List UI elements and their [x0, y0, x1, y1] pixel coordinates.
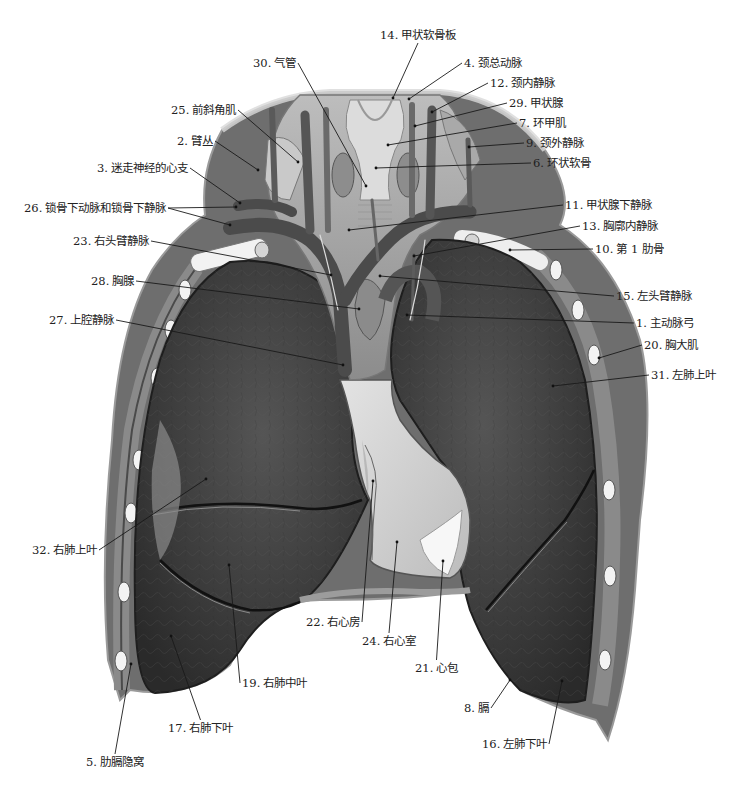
leader-dot-1 [406, 314, 409, 317]
label-text: 左肺下叶 [503, 737, 547, 751]
label-11: 11.甲状腺下静脉 [565, 198, 652, 212]
leader-dot-25 [297, 161, 300, 164]
label-32: 32.右肺上叶 [32, 543, 97, 557]
label-4: 4.颈总动脉 [464, 56, 522, 70]
label-30: 30.气管 [253, 56, 296, 70]
label-25: 25.前斜角肌 [171, 103, 236, 117]
label-22: 22.右心房 [306, 615, 360, 629]
leader-dot-24 [396, 541, 399, 544]
label-8: 8.膈 [464, 701, 489, 715]
label-29: 29.甲状腺 [509, 96, 563, 110]
label-text: 环甲肌 [533, 116, 566, 130]
label-20: 20.胸大肌 [644, 338, 698, 352]
leader-dot-5 [130, 663, 133, 666]
leader-dot-19 [228, 564, 231, 567]
leader-dot-8 [509, 679, 512, 682]
label-text: 右心室 [383, 634, 416, 648]
label-number: 31. [651, 368, 669, 382]
leader-dot-22 [372, 480, 375, 483]
label-number: 22. [306, 615, 324, 629]
label-text: 胸腺 [112, 274, 134, 288]
label-number: 29. [509, 96, 527, 110]
leader-dot-11 [348, 229, 351, 232]
label-number: 21. [415, 661, 433, 675]
leader-dot-3 [239, 202, 242, 205]
label-number: 5. [86, 755, 97, 769]
label-15: 15.左头臂静脉 [616, 289, 692, 303]
leader-dot-27 [342, 364, 345, 367]
leader-dot-26 [229, 224, 232, 227]
label-23: 23.右头臂静脉 [73, 234, 149, 248]
label-26: 26.锁骨下动脉和锁骨下静脉 [24, 201, 166, 215]
label-text: 右肺下叶 [189, 721, 233, 735]
label-number: 15. [616, 289, 634, 303]
label-9: 9.颈外静脉 [526, 136, 584, 150]
label-21: 21.心包 [415, 661, 458, 675]
label-number: 26. [24, 201, 42, 215]
leader-dot-21 [442, 560, 445, 563]
label-text: 环状软骨 [547, 156, 591, 170]
label-text: 颈外静脉 [540, 136, 584, 150]
label-7: 7.环甲肌 [519, 116, 566, 130]
leader-dot-6 [375, 167, 378, 170]
label-text: 膈 [478, 701, 489, 715]
label-12: 12.颈内静脉 [490, 76, 555, 90]
leader-dot-10 [509, 249, 512, 252]
leader-dot-17 [170, 635, 173, 638]
label-text: 气管 [274, 56, 296, 70]
label-text: 迷走神经的心支 [111, 161, 188, 175]
label-28: 28.胸腺 [91, 274, 134, 288]
label-number: 28. [91, 274, 109, 288]
label-number: 30. [253, 56, 271, 70]
label-1: 1.主动脉弓 [636, 316, 694, 330]
label-text: 颈总动脉 [478, 56, 522, 70]
label-text: 锁骨下动脉和锁骨下静脉 [45, 201, 166, 215]
leader-dot-14 [392, 97, 395, 100]
label-text: 左肺上叶 [672, 368, 716, 382]
leader-dot-29 [414, 125, 417, 128]
label-number: 13. [582, 219, 600, 233]
label-text: 前斜角肌 [192, 103, 236, 117]
label-text: 心包 [436, 661, 458, 675]
leader-dot-9 [468, 146, 471, 149]
label-text: 臂丛 [191, 134, 213, 148]
leader-dot-16 [561, 680, 564, 683]
label-number: 6. [533, 156, 544, 170]
label-27: 27.上腔静脉 [49, 313, 114, 327]
label-14: 14.甲状软骨板 [380, 28, 456, 42]
label-number: 14. [380, 28, 398, 42]
label-number: 12. [490, 76, 508, 90]
label-number: 8. [464, 701, 475, 715]
label-text: 甲状腺下静脉 [586, 198, 652, 212]
label-text: 上腔静脉 [70, 313, 114, 327]
label-13: 13.胸廓内静脉 [582, 219, 658, 233]
label-number: 3. [97, 161, 108, 175]
leader-dot-30 [365, 185, 368, 188]
label-16: 16.左肺下叶 [482, 737, 547, 751]
label-number: 32. [32, 543, 50, 557]
label-text: 主动脉弓 [650, 316, 694, 330]
label-number: 2. [177, 134, 188, 148]
label-24: 24.右心室 [362, 634, 416, 648]
label-number: 23. [73, 234, 91, 248]
label-number: 17. [168, 721, 186, 735]
leader-dot-28 [358, 308, 361, 311]
label-10: 10.第 1 肋骨 [595, 242, 664, 256]
label-text: 右心房 [327, 615, 360, 629]
label-2: 2.臂丛 [177, 134, 213, 148]
label-3: 3.迷走神经的心支 [97, 161, 188, 175]
label-number: 11. [565, 198, 583, 212]
label-17: 17.右肺下叶 [168, 721, 233, 735]
label-number: 20. [644, 338, 662, 352]
label-6: 6.环状软骨 [533, 156, 591, 170]
label-5: 5.肋膈隐窝 [86, 755, 144, 769]
leader-dot-2 [257, 169, 260, 172]
leader-dot-31 [552, 385, 555, 388]
leader-dot-7 [387, 144, 390, 147]
label-text: 胸大肌 [665, 338, 698, 352]
label-number: 24. [362, 634, 380, 648]
label-text: 右肺上叶 [53, 543, 97, 557]
label-number: 1. [636, 316, 647, 330]
label-number: 9. [526, 136, 537, 150]
leader-dot-13 [413, 255, 416, 258]
